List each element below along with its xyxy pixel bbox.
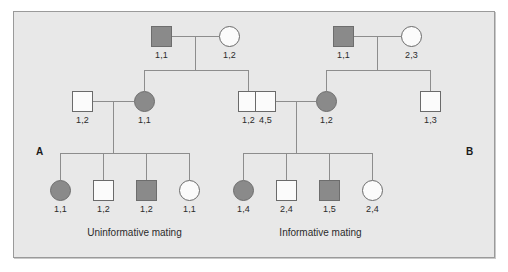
panel-b-caption: Informative mating xyxy=(200,227,441,238)
gen2-proband-genotype: 1,1 xyxy=(114,115,175,125)
gen3-child-1-symbol xyxy=(233,180,254,201)
gen1-descent-line xyxy=(377,36,378,70)
gen2-sibship-bar xyxy=(144,70,248,71)
panel-letter-b: B xyxy=(466,146,473,157)
gen3-drop-1 xyxy=(243,153,244,180)
gen2-sibling-symbol xyxy=(420,91,441,112)
gen1-father-symbol xyxy=(151,26,172,47)
pedigree-panel-a: A 1,1 1,2 1,2 1,1 1,2 xyxy=(14,12,255,259)
gen1-descent-line xyxy=(195,36,196,70)
gen2-drop-sibling xyxy=(248,70,249,91)
gen3-child-4-symbol xyxy=(179,180,200,201)
gen1-mother-genotype: 1,2 xyxy=(199,50,260,60)
gen1-father-genotype: 1,1 xyxy=(313,50,374,60)
gen3-drop-2 xyxy=(103,153,104,180)
gen2-proband-symbol xyxy=(134,91,155,112)
gen2-drop-proband xyxy=(144,70,145,91)
pedigree-panel-b: B 1,1 2,3 4,5 1,2 1,3 xyxy=(255,12,496,259)
gen2-drop-sibling xyxy=(430,70,431,91)
gen1-mother-symbol xyxy=(401,26,422,47)
gen3-drop-4 xyxy=(372,153,373,180)
gen3-child-4-symbol xyxy=(362,180,383,201)
gen2-drop-proband xyxy=(326,70,327,91)
gen3-child-1-symbol xyxy=(50,180,71,201)
gen3-child-4-genotype: 1,1 xyxy=(159,204,220,214)
gen3-drop-4 xyxy=(189,153,190,180)
gen3-drop-1 xyxy=(60,153,61,180)
gen3-child-3-symbol xyxy=(136,180,157,201)
gen3-sibship-bar xyxy=(60,153,189,154)
figure-frame: A 1,1 1,2 1,2 1,1 1,2 xyxy=(13,11,495,258)
gen2-sibling-genotype: 1,3 xyxy=(400,115,461,125)
gen2-proband-genotype: 1,2 xyxy=(296,115,357,125)
gen3-child-4-genotype: 2,4 xyxy=(342,204,403,214)
gen2-spouse-genotype: 1,2 xyxy=(52,115,113,125)
gen2-spouse-symbol xyxy=(72,91,93,112)
gen1-father-genotype: 1,1 xyxy=(131,50,192,60)
gen1-father-symbol xyxy=(333,26,354,47)
gen1-mother-genotype: 2,3 xyxy=(381,50,442,60)
gen3-child-3-symbol xyxy=(319,180,340,201)
panel-letter-a: A xyxy=(36,146,43,157)
gen2-descent-line xyxy=(113,101,114,153)
gen3-child-2-symbol xyxy=(276,180,297,201)
gen1-mother-symbol xyxy=(219,26,240,47)
gen3-sibship-bar xyxy=(243,153,372,154)
gen2-descent-line xyxy=(296,101,297,153)
gen3-child-2-symbol xyxy=(93,180,114,201)
gen3-drop-2 xyxy=(286,153,287,180)
gen2-spouse-symbol xyxy=(255,91,276,112)
gen3-drop-3 xyxy=(329,153,330,180)
pedigree-figure-root: A 1,1 1,2 1,2 1,1 1,2 xyxy=(0,0,508,272)
gen3-drop-3 xyxy=(146,153,147,180)
gen2-sibship-bar xyxy=(326,70,430,71)
gen2-proband-symbol xyxy=(316,91,337,112)
gen2-spouse-genotype: 4,5 xyxy=(235,115,296,125)
